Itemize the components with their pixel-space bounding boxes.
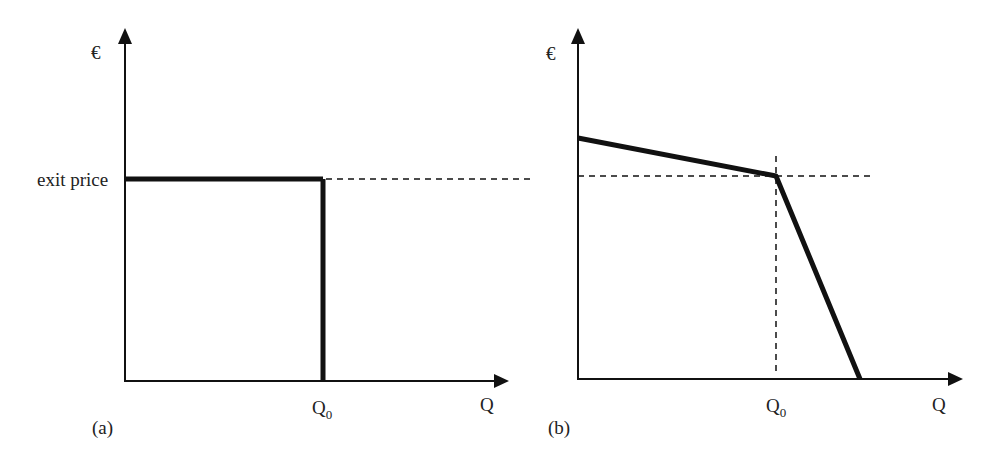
q0-text: Q	[766, 395, 780, 416]
panel-b-euro-label: €	[546, 44, 556, 63]
q0-subscript: 0	[326, 407, 333, 422]
exit-price-label: exit price	[37, 170, 108, 189]
panel-a-q-label: Q	[480, 395, 494, 414]
panel-b-q-label: Q	[932, 395, 946, 414]
panel-a-q0-label: Q0	[312, 398, 332, 421]
panel-a-graphics	[118, 28, 534, 388]
panel-a-tag: (a)	[92, 418, 113, 437]
q0-subscript: 0	[780, 405, 787, 420]
panel-b-graphics	[571, 28, 963, 386]
panel-b-q0-label: Q0	[766, 396, 786, 419]
panel-a-euro-label: €	[91, 43, 101, 62]
diagram-canvas	[0, 0, 994, 456]
panel-b-tag: (b)	[548, 418, 570, 437]
q0-text: Q	[312, 397, 326, 418]
